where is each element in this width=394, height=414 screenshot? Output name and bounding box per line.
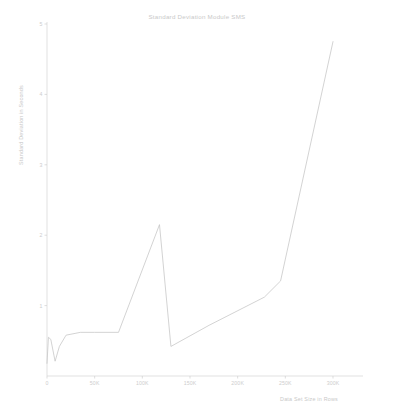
y-tick-label: 3 — [39, 162, 42, 168]
data-series-line — [47, 42, 333, 364]
y-tick-label: 2 — [39, 232, 42, 238]
x-tick-label: 200K — [231, 380, 244, 386]
x-tick-label: 150K — [184, 380, 197, 386]
plot-area: 12345 050K100K150K200K250K300K — [0, 0, 394, 414]
x-tick-label: 250K — [279, 380, 292, 386]
x-tick-label: 300K — [327, 380, 340, 386]
y-tick-label: 5 — [39, 21, 42, 27]
x-tick-label: 100K — [136, 380, 149, 386]
x-tick-label: 0 — [45, 380, 48, 386]
y-tick-label: 1 — [39, 303, 42, 309]
y-axis: 12345 — [39, 21, 47, 376]
x-tick-label: 50K — [90, 380, 100, 386]
data-series-group — [47, 42, 333, 364]
y-tick-label: 4 — [39, 91, 42, 97]
chart-container: Standard Deviation Module SMS Standard D… — [0, 0, 394, 414]
x-axis: 050K100K150K200K250K300K — [45, 376, 363, 386]
